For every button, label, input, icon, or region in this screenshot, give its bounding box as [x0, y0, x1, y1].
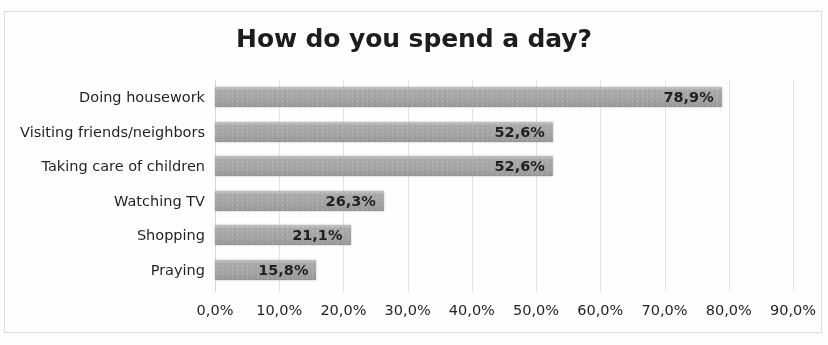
- category-axis: Doing houseworkVisiting friends/neighbor…: [0, 80, 205, 292]
- x-tick-label: 60,0%: [565, 302, 635, 318]
- bar-value-label: 78,9%: [215, 87, 714, 107]
- bar-row: 26,3%: [215, 191, 793, 211]
- chart-container: How do you spend a day? Doing houseworkV…: [0, 0, 828, 345]
- x-tick-label: 50,0%: [501, 302, 571, 318]
- bar-value-label: 26,3%: [215, 191, 376, 211]
- gridline-90: [793, 80, 794, 292]
- bar-row: 21,1%: [215, 225, 793, 245]
- category-label: Shopping: [0, 225, 205, 245]
- bar-row: 52,6%: [215, 122, 793, 142]
- bar-row: 78,9%: [215, 87, 793, 107]
- category-label: Doing housework: [0, 87, 205, 107]
- bar-value-label: 21,1%: [215, 225, 343, 245]
- bar-row: 15,8%: [215, 260, 793, 280]
- x-tick-label: 0,0%: [180, 302, 250, 318]
- category-label: Praying: [0, 260, 205, 280]
- x-tick-label: 10,0%: [244, 302, 314, 318]
- bar-row: 52,6%: [215, 156, 793, 176]
- x-tick-label: 70,0%: [630, 302, 700, 318]
- x-tick-label: 20,0%: [308, 302, 378, 318]
- bar-value-label: 52,6%: [215, 156, 545, 176]
- plot-area: 78,9%52,6%52,6%26,3%21,1%15,8%: [215, 80, 793, 292]
- x-tick-label: 90,0%: [758, 302, 828, 318]
- x-tick-label: 40,0%: [437, 302, 507, 318]
- category-label: Visiting friends/neighbors: [0, 122, 205, 142]
- chart-title: How do you spend a day?: [0, 24, 828, 53]
- x-axis: 0,0%10,0%20,0%30,0%40,0%50,0%60,0%70,0%8…: [215, 302, 793, 326]
- x-tick-label: 30,0%: [373, 302, 443, 318]
- bar-value-label: 52,6%: [215, 122, 545, 142]
- category-label: Watching TV: [0, 191, 205, 211]
- x-tick-label: 80,0%: [694, 302, 764, 318]
- bar-value-label: 15,8%: [215, 260, 308, 280]
- category-label: Taking care of children: [0, 156, 205, 176]
